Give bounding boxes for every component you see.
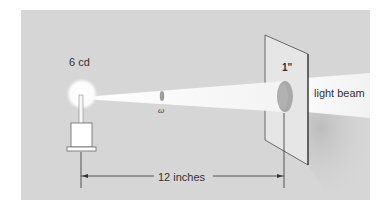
diagram-canvas: 6 cd ω 1" light beam 12 inches (0, 0, 387, 209)
solid-angle-section (160, 91, 164, 101)
bulb-stem (79, 95, 83, 124)
bulb-foot (67, 147, 96, 151)
aperture-highlight (278, 84, 288, 110)
source-intensity-label: 6 cd (69, 56, 90, 68)
bulb-base (71, 123, 92, 147)
distance-label: 12 inches (156, 171, 207, 183)
aperture-diameter-label: 1" (282, 62, 292, 73)
solid-angle-label: ω (158, 106, 164, 115)
light-beam-label: light beam (314, 87, 365, 99)
